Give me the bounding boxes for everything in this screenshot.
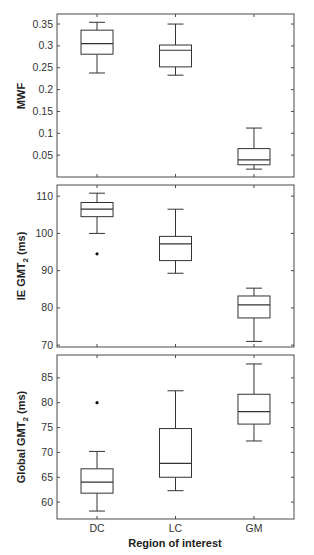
box-dc bbox=[81, 401, 113, 511]
iqr-box bbox=[238, 296, 270, 318]
box-dc bbox=[81, 193, 113, 255]
y-tick-label: 70 bbox=[41, 446, 53, 458]
y-tick-label: 85 bbox=[41, 371, 53, 383]
x-axis-title: Region of interest bbox=[128, 537, 222, 549]
y-tick-label: 0.2 bbox=[38, 83, 53, 95]
y-tick-label: 110 bbox=[36, 190, 53, 202]
y-tick-label: 0.35 bbox=[33, 18, 54, 30]
box-lc bbox=[160, 24, 192, 75]
mwf-panel: MWF 0.050.10.150.20.250.30.35 bbox=[15, 14, 294, 177]
ie-gmt2-panel: IE GMT2 (ms) 708090100110 bbox=[15, 185, 294, 351]
y-axis-title-units: (ms) bbox=[15, 231, 27, 258]
outlier-point bbox=[95, 401, 98, 404]
y-tick-label: 65 bbox=[41, 471, 53, 483]
y-axis-title-main: Global GMT bbox=[15, 421, 27, 483]
iqr-box bbox=[160, 236, 192, 260]
y-tick-label: 70 bbox=[41, 339, 53, 351]
iqr-box bbox=[160, 45, 192, 67]
box-gm bbox=[238, 364, 270, 441]
y-tick-label: 0.3 bbox=[38, 39, 53, 51]
iqr-box bbox=[81, 469, 113, 493]
y-axis-title: Global GMT2 (ms) bbox=[15, 390, 30, 483]
y-tick-label: 0.1 bbox=[38, 127, 53, 139]
y-axis-title: IE GMT2 (ms) bbox=[15, 231, 30, 300]
y-axis-title-main: IE GMT bbox=[15, 262, 27, 300]
box-lc bbox=[160, 391, 192, 491]
y-tick-label: 80 bbox=[41, 301, 53, 313]
y-tick-label: 0.25 bbox=[33, 61, 54, 73]
box-gm bbox=[238, 128, 270, 169]
iqr-box bbox=[81, 30, 113, 54]
x-tick-label-gm: GM bbox=[246, 522, 263, 534]
y-axis-title-units: (ms) bbox=[15, 390, 27, 417]
y-tick-label: 60 bbox=[41, 496, 53, 508]
box-gm bbox=[238, 288, 270, 341]
y-tick-label: 0.05 bbox=[33, 149, 54, 161]
y-tick-label: 90 bbox=[41, 264, 53, 276]
outlier-point bbox=[95, 252, 98, 255]
iqr-box bbox=[238, 394, 270, 424]
box-dc bbox=[81, 22, 113, 73]
y-axis-title: MWF bbox=[15, 83, 27, 110]
y-tick-label: 75 bbox=[41, 421, 53, 433]
y-tick-label: 100 bbox=[35, 227, 53, 239]
y-tick-label: 0.15 bbox=[33, 105, 54, 117]
box-lc bbox=[160, 209, 192, 273]
x-tick-label-dc: DC bbox=[89, 522, 105, 534]
y-tick-label: 80 bbox=[41, 396, 53, 408]
x-tick-label-lc: LC bbox=[169, 522, 183, 534]
iqr-box bbox=[160, 429, 192, 478]
global-gmt2-panel: Global GMT2 (ms) Region of interest 6065… bbox=[15, 355, 294, 549]
iqr-box bbox=[238, 149, 270, 165]
box-plot-figure: MWF 0.050.10.150.20.250.30.35 IE GMT2 (m… bbox=[0, 0, 314, 555]
